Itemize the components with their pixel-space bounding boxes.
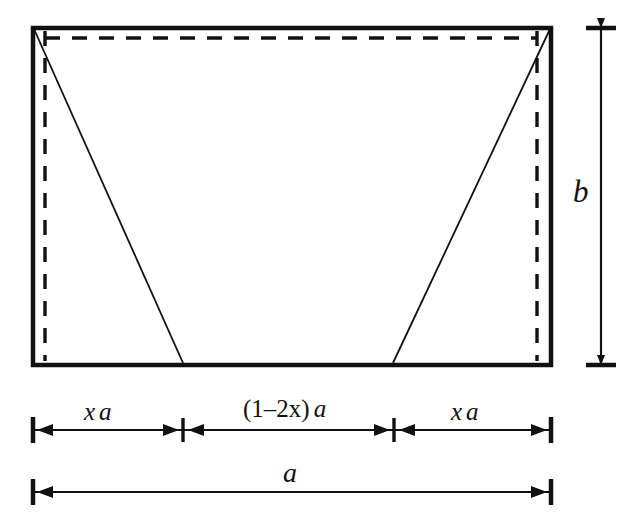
right-segment-label: xa (451, 399, 479, 424)
main-rectangle (33, 28, 551, 365)
height-dimension-label: b (573, 176, 589, 207)
arrowhead-width-start (37, 486, 53, 498)
arrowhead-width-end (531, 486, 547, 498)
right-diagonal-fold-line (393, 29, 550, 363)
arrowhead-seg1-end (163, 424, 179, 436)
height-dimension-line (586, 28, 616, 365)
arrowhead-seg1-start (37, 424, 53, 436)
width-dimension-label: a (283, 459, 297, 487)
figure-canvas: b xa (1–2x)a xa a (0, 0, 641, 519)
middle-segment-label: (1–2x)a (243, 396, 326, 421)
arrowhead-seg3-start (399, 424, 415, 436)
arrowhead-seg2-end (374, 424, 390, 436)
diagram-svg (0, 0, 641, 519)
arrowhead-seg3-end (531, 424, 547, 436)
arrowhead-seg2-start (188, 424, 204, 436)
left-segment-label: xa (84, 399, 112, 424)
left-diagonal-fold-line (34, 29, 183, 363)
